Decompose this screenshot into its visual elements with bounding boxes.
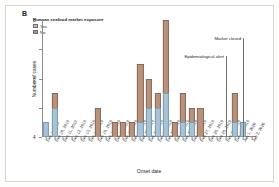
bar-segment-no (137, 64, 143, 123)
bar-segment-no (154, 93, 160, 108)
annotation-line (243, 38, 244, 137)
bar-segment-no (180, 93, 186, 122)
bar[interactable] (180, 93, 186, 137)
x-axis-title: Onset date (42, 168, 256, 174)
bar[interactable] (52, 93, 58, 137)
bar[interactable] (137, 64, 143, 137)
bar-segment-no (189, 108, 195, 123)
y-axis-tick-label: 4 (33, 135, 36, 140)
y-axis-tick: 0 (39, 137, 42, 138)
bar-slot: Jan 2, 2020 (247, 20, 256, 137)
bar[interactable] (146, 79, 152, 138)
y-axis-tick-label: 6 (33, 76, 36, 81)
bar-segment-yes (163, 93, 169, 137)
y-axis-tick-label: 8 (33, 18, 36, 23)
bar-segment-no (146, 79, 152, 108)
bar-segment-no (231, 93, 237, 122)
bar[interactable] (154, 93, 160, 137)
figure-panel-b: B Huanan seafood market exposure Yes No … (0, 0, 279, 187)
bar-segment-yes (154, 108, 160, 137)
legend-swatch-yes-icon (33, 24, 38, 28)
legend-swatch-no-icon (33, 30, 38, 34)
plot-area: Number of cases 02468 Dec 1, 2019Dec 10,… (42, 20, 256, 137)
annotation-line (226, 56, 227, 137)
annotation-label: Epidemiological alert (42, 54, 224, 59)
bar[interactable] (231, 93, 237, 137)
bar-segment-no (52, 93, 58, 108)
annotation-label: Market closed (42, 36, 241, 41)
panel-label: B (22, 10, 27, 17)
